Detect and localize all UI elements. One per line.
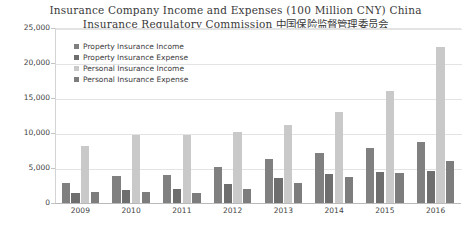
y-tick-label: 15,000: [2, 94, 50, 102]
y-tick-label: 5,000: [2, 164, 50, 172]
x-tick-label: 2016: [410, 206, 461, 216]
y-axis-labels: 25,000 20,000 15,000 10,000 5,000 0: [0, 0, 50, 237]
x-tick-label: 2009: [55, 206, 106, 216]
bar: [163, 175, 171, 203]
chart-container: Insurance Company Income and Expenses (1…: [0, 0, 471, 237]
y-tick-label: 10,000: [2, 129, 50, 137]
chart-legend: Property Insurance IncomeProperty Insura…: [74, 41, 244, 85]
legend-label: Personal Insurance Income: [83, 64, 184, 73]
legend-item[interactable]: Property Insurance Expense: [74, 52, 244, 63]
bar: [345, 177, 353, 203]
bar: [173, 189, 181, 203]
x-tick-label: 2011: [157, 206, 208, 216]
legend-label: Property Insurance Income: [83, 42, 184, 51]
legend-swatch-icon: [74, 77, 79, 82]
legend-swatch-icon: [74, 44, 79, 49]
legend-label: Property Insurance Expense: [83, 53, 188, 62]
bar: [122, 190, 130, 203]
x-tick-label: 2015: [360, 206, 411, 216]
bar: [325, 174, 333, 203]
bar: [366, 148, 374, 203]
x-axis-labels: 20092010201120122013201420152016: [55, 206, 461, 222]
bar: [395, 173, 403, 203]
y-tick-label: 0: [2, 199, 50, 207]
bar: [192, 193, 200, 204]
legend-item[interactable]: Property Insurance Income: [74, 41, 244, 52]
legend-item[interactable]: Personal Insurance Expense: [74, 74, 244, 85]
bar: [62, 183, 70, 203]
legend-label: Personal Insurance Expense: [83, 75, 188, 84]
bar: [284, 125, 292, 203]
y-tick-label: 20,000: [2, 59, 50, 67]
bar: [386, 91, 394, 203]
legend-swatch-icon: [74, 66, 79, 71]
x-tick-label: 2012: [207, 206, 258, 216]
bar: [142, 192, 150, 203]
bar: [274, 178, 282, 203]
bar: [81, 146, 89, 203]
bar: [376, 172, 384, 203]
bar: [436, 47, 444, 203]
bar: [91, 192, 99, 203]
bar: [315, 153, 323, 203]
x-tick-label: 2013: [258, 206, 309, 216]
bar: [243, 189, 251, 203]
bar: [71, 193, 79, 204]
x-axis-line: [55, 203, 461, 204]
bar: [233, 132, 241, 203]
legend-swatch-icon: [74, 55, 79, 60]
tick-mark: [51, 203, 55, 204]
x-tick-label: 2014: [309, 206, 360, 216]
chart-title: Insurance Company Income and Expenses (1…: [0, 3, 471, 31]
bar: [335, 112, 343, 203]
bar: [417, 142, 425, 203]
bar: [183, 135, 191, 203]
bar: [214, 167, 222, 203]
legend-item[interactable]: Personal Insurance Income: [74, 63, 244, 74]
bar: [427, 171, 435, 203]
bar: [132, 135, 140, 203]
bar: [112, 176, 120, 203]
x-tick-label: 2010: [106, 206, 157, 216]
bar: [224, 184, 232, 203]
y-tick-label: 25,000: [2, 24, 50, 32]
bar: [294, 183, 302, 203]
bar: [265, 159, 273, 203]
bar: [446, 161, 454, 203]
